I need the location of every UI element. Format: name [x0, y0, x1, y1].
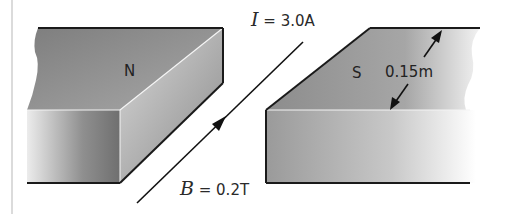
north-magnet	[27, 28, 223, 183]
current-symbol: I	[251, 8, 259, 30]
gap-dimension-label: 0.15m	[385, 65, 433, 80]
diagram-canvas	[0, 0, 507, 214]
north-pole-label: N	[124, 64, 135, 79]
south-magnet	[266, 28, 480, 183]
current-value: 3.0A	[281, 12, 315, 30]
current-label: I = 3.0A	[251, 10, 315, 29]
south-magnet-front-face	[266, 110, 476, 183]
field-value: 0.2T	[216, 181, 249, 199]
magnet-wire-diagram: N S 0.15m I = 3.0A B = 0.2T	[0, 0, 507, 214]
south-pole-label: S	[352, 66, 362, 81]
field-symbol: B	[180, 177, 194, 199]
field-label: B = 0.2T	[180, 179, 249, 198]
north-magnet-front-face	[27, 110, 120, 183]
current-equals: =	[259, 12, 281, 30]
field-equals: =	[194, 181, 216, 199]
south-magnet-top-face	[266, 28, 480, 110]
